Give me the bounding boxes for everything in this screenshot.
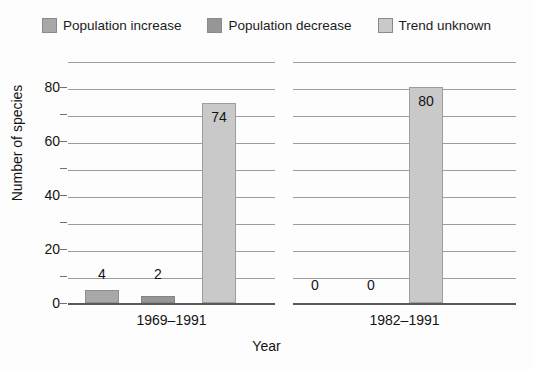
panel-1969-1991: 4 2 74 [68,62,275,305]
gridline [68,116,275,117]
bar-value-trend-unknown: 74 [202,110,236,124]
y-axis-tick-mark [60,195,67,196]
y-axis-tick-mark [60,303,67,304]
y-axis-tick-mark [60,114,67,115]
gridline [68,143,275,144]
legend-swatch-population-increase [42,18,57,33]
bar-value-population-decrease: 0 [354,278,388,292]
gridline [68,251,275,252]
bar-population-increase [85,290,119,303]
gridline [68,197,275,198]
bar-value-population-decrease: 2 [141,267,175,281]
gridline [293,62,516,63]
gridline [68,224,275,225]
gridline [68,170,275,171]
y-axis-tick-marks [0,62,68,305]
legend-label-population-decrease: Population decrease [228,19,351,33]
y-axis-tick-mark [60,141,67,142]
gridline [293,89,516,90]
bar-chart: Population increase Population decrease … [0,0,533,370]
bar-value-population-increase: 4 [85,267,119,281]
legend-label-trend-unknown: Trend unknown [399,19,492,33]
chart-legend: Population increase Population decrease … [0,18,533,33]
gridline [293,116,516,117]
x-axis-title: Year [0,338,533,354]
y-axis-tick-mark [60,249,67,250]
x-axis-baseline [68,303,275,305]
legend-swatch-population-decrease [207,18,222,33]
gridline [293,143,516,144]
bar-value-trend-unknown: 80 [409,94,443,108]
gridline [293,170,516,171]
gridline [68,62,275,63]
x-axis-baseline [293,303,516,305]
bar-trend-unknown [409,87,443,303]
bar-population-decrease [141,296,175,303]
x-axis-tick-label-1969-1991: 1969–1991 [68,312,275,328]
y-axis-tick-mark [60,168,67,169]
gridline [68,89,275,90]
gridline [293,197,516,198]
legend-label-population-increase: Population increase [63,19,182,33]
legend-item-population-increase: Population increase [42,18,182,33]
legend-item-population-decrease: Population decrease [207,18,351,33]
panel-1982-1991: 0 0 80 [293,62,516,305]
legend-swatch-trend-unknown [378,18,393,33]
x-axis-tick-label-1982-1991: 1982–1991 [293,312,516,328]
bar-value-population-increase: 0 [298,278,332,292]
y-axis-tick-mark [60,222,67,223]
y-axis-tick-mark [60,276,67,277]
plot-area: 4 2 74 0 0 80 [68,62,516,305]
legend-item-trend-unknown: Trend unknown [378,18,492,33]
gridline [293,251,516,252]
y-axis-tick-mark [60,87,67,88]
bar-trend-unknown [202,103,236,303]
gridline [293,224,516,225]
